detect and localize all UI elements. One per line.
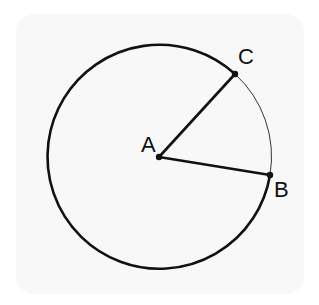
circle-diagram: A B C: [0, 0, 319, 305]
radius-ac: [159, 74, 235, 157]
label-a: A: [141, 132, 156, 157]
label-b: B: [274, 177, 289, 202]
point-c: [232, 71, 238, 77]
point-a: [156, 154, 162, 160]
label-c: C: [238, 44, 254, 69]
radius-ab: [159, 157, 270, 175]
point-b: [267, 172, 273, 178]
minor-arc-cb: [235, 74, 272, 175]
